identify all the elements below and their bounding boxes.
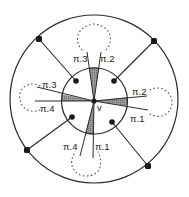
- label-right-upper: π.2: [132, 86, 146, 97]
- inner-node-bottom-left: [69, 114, 75, 120]
- inner-node-top-right: [111, 78, 117, 84]
- diagram-canvas: π.3 π.2 π.3 π.4 π.2 π.1 π.4 π.1 v: [0, 0, 189, 197]
- outer-node-top-right: [151, 38, 157, 44]
- dotted-loop-top: [78, 24, 111, 50]
- label-top-right: π.2: [100, 53, 114, 64]
- label-right-lower: π.1: [130, 113, 144, 124]
- spoke-top-right: [114, 41, 154, 81]
- outer-node-bottom-left: [24, 147, 30, 153]
- spoke-top-left: [39, 39, 76, 81]
- outer-node-bottom-right: [145, 163, 151, 169]
- label-top-left: π.3: [73, 53, 87, 64]
- center-vertex: [91, 98, 96, 103]
- label-left-lower: π.4: [40, 103, 54, 114]
- label-bottom-left: π.4: [63, 141, 77, 152]
- spoke-bottom-right: [112, 122, 148, 166]
- label-bottom-right: π.1: [95, 141, 109, 152]
- inner-node-bottom-right: [109, 119, 115, 125]
- dotted-loop-bottom: [72, 152, 101, 176]
- dotted-loop-left: [20, 84, 40, 111]
- dotted-loop-right: [150, 88, 172, 116]
- inner-node-top-left: [73, 78, 79, 84]
- label-center-v: v: [97, 103, 102, 113]
- wedge-top: [89, 67, 99, 101]
- label-left-upper: π.3: [42, 79, 56, 90]
- outer-node-top-left: [36, 36, 42, 42]
